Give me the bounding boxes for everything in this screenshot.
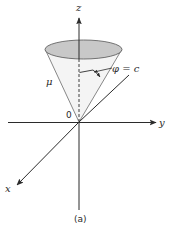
cone-body (45, 49, 122, 122)
z-axis-label: z (75, 2, 82, 13)
cone-coordinate-diagram: z y x 0 μ φ = c (a) (0, 0, 175, 226)
origin-label: 0 (66, 110, 72, 120)
figure-caption: (a) (74, 214, 87, 224)
cone-surface-label: μ (46, 76, 53, 87)
x-axis (17, 122, 79, 185)
cone-top-ellipse (45, 40, 122, 59)
angle-label: φ = c (112, 63, 140, 74)
x-axis-label: x (5, 183, 11, 194)
y-axis-label: y (158, 117, 165, 128)
